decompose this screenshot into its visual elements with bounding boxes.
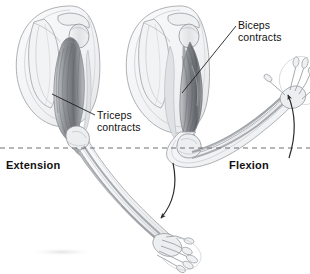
hand-left-extended	[153, 234, 201, 274]
hand-right-flexed	[263, 56, 310, 108]
extension-shadow	[28, 248, 96, 256]
elbow-joint-right	[177, 134, 201, 158]
extension-label: Extension	[6, 159, 60, 172]
biceps-contracts-label: Biceps contracts	[238, 19, 282, 44]
biceps-label-line1: Biceps	[238, 19, 282, 31]
triceps-contracts-label: Triceps contracts	[97, 109, 141, 134]
triceps-label-line2: contracts	[97, 121, 141, 133]
flexion-label: Flexion	[229, 159, 269, 172]
elbow-joint-left	[66, 126, 89, 150]
extension-motion-arrow	[161, 163, 175, 218]
triceps-label-line1: Triceps	[97, 109, 141, 121]
anatomy-figure: Biceps contracts Triceps contracts Exten…	[0, 0, 310, 274]
flexed-arm-group	[126, 6, 310, 168]
biceps-label-line2: contracts	[238, 31, 282, 43]
